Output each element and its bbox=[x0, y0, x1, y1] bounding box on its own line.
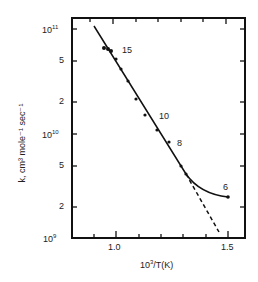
y-tick-2e10: 2 bbox=[59, 97, 64, 106]
y-tick-2e9: 2 bbox=[59, 202, 64, 211]
annotation-15: 15 bbox=[122, 46, 132, 55]
x-ticks-bottom bbox=[94, 231, 228, 238]
annotation-10: 10 bbox=[159, 112, 169, 121]
chart-plot bbox=[0, 0, 258, 282]
y-tick-5e10: 5 bbox=[59, 56, 64, 65]
y-axis-label: k, cm³ mole⁻¹ sec⁻¹ bbox=[17, 95, 27, 191]
x-tick-1.0: 1.0 bbox=[108, 243, 121, 252]
y-tick-5e9: 5 bbox=[59, 161, 64, 170]
x-axis-label: 103/T(K) bbox=[140, 259, 173, 270]
data-points bbox=[102, 46, 230, 199]
y-tick-1e10: 1010 bbox=[42, 129, 59, 140]
y-tick-1e11: 1011 bbox=[42, 24, 58, 35]
plot-frame bbox=[72, 18, 245, 238]
annotation-6: 6 bbox=[223, 183, 228, 192]
y-tick-1e9: 109 bbox=[43, 233, 56, 244]
extrapolation-line bbox=[186, 174, 219, 232]
x-tick-1.5: 1.5 bbox=[221, 243, 234, 252]
annotation-8: 8 bbox=[177, 139, 182, 148]
